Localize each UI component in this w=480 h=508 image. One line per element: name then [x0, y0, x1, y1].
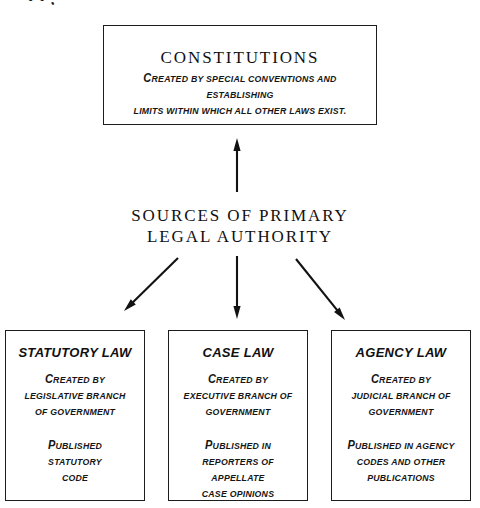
statutory-law-heading: STATUTORY LAW: [6, 345, 144, 360]
legal-authority-diagram: • • , CONSTITUTIONS CREATED BY SPECIAL C…: [0, 0, 480, 508]
case-created-line-3: GOVERNMENT: [178, 404, 298, 420]
arrow-down-left-to-statutory-shaft: [131, 258, 178, 304]
page-scan-fragment: • • ,: [28, 0, 268, 5]
case-law-block-created: CREATED BY EXECUTIVE BRANCH OF GOVERNMEN…: [173, 371, 303, 420]
arrow-down-right-to-agency-shaft: [296, 259, 339, 312]
center-label-line-1: SOURCES OF PRIMARY: [0, 205, 480, 226]
agency-created-line-3: GOVERNMENT: [341, 404, 461, 420]
statutory-published-line-3: CODE: [15, 470, 135, 486]
agency-law-block-published: PUBLISHED IN AGENCY CODES AND OTHER PUBL…: [336, 437, 466, 486]
case-law-box: CASE LAW CREATED BY EXECUTIVE BRANCH OF …: [168, 330, 308, 501]
agency-published-line-1: PUBLISHED IN AGENCY: [341, 437, 461, 454]
constitutions-body: CREATED BY SPECIAL CONVENTIONS AND ESTAB…: [110, 70, 370, 119]
statutory-created-line-2: LEGISLATIVE BRANCH: [15, 388, 135, 404]
case-created-line-1: CREATED BY: [178, 371, 298, 388]
agency-created-line-1: CREATED BY: [341, 371, 461, 388]
arrow-down-right-to-agency-head: [334, 308, 345, 320]
statutory-published-line-2: STATUTORY: [15, 454, 135, 470]
statutory-created-line-3: OF GOVERNMENT: [15, 404, 135, 420]
agency-law-heading: AGENCY LAW: [332, 345, 470, 360]
constitutions-line-2: LIMITS WITHIN WHICH ALL OTHER LAWS EXIST…: [120, 103, 359, 119]
statutory-law-box: STATUTORY LAW CREATED BY LEGISLATIVE BRA…: [5, 330, 145, 501]
constitutions-box: CONSTITUTIONS CREATED BY SPECIAL CONVENT…: [103, 25, 377, 125]
agency-law-box: AGENCY LAW CREATED BY JUDICIAL BRANCH OF…: [331, 330, 471, 501]
agency-created-line-2: JUDICIAL BRANCH OF: [341, 388, 461, 404]
center-label-line-2: LEGAL AUTHORITY: [0, 226, 480, 247]
case-law-block-published: PUBLISHED IN REPORTERS OF APPELLATE CASE…: [173, 437, 303, 502]
case-published-line-1: PUBLISHED IN: [178, 437, 298, 454]
case-law-heading: CASE LAW: [169, 345, 307, 360]
agency-published-line-3: PUBLICATIONS: [341, 470, 461, 486]
agency-published-line-2: CODES AND OTHER: [341, 454, 461, 470]
statutory-law-block-created: CREATED BY LEGISLATIVE BRANCH OF GOVERNM…: [10, 371, 140, 420]
statutory-published-line-1: PUBLISHED: [15, 437, 135, 454]
center-label: SOURCES OF PRIMARY LEGAL AUTHORITY: [0, 205, 480, 247]
agency-law-block-created: CREATED BY JUDICIAL BRANCH OF GOVERNMENT: [336, 371, 466, 420]
case-published-line-2: REPORTERS OF APPELLATE: [178, 454, 298, 486]
constitutions-heading: CONSTITUTIONS: [104, 48, 376, 68]
statutory-law-block-published: PUBLISHED STATUTORY CODE: [10, 437, 140, 486]
statutory-created-line-1: CREATED BY: [15, 371, 135, 388]
case-published-line-3: CASE OPINIONS: [178, 486, 298, 502]
arrow-up-to-constitutions-head: [233, 138, 240, 151]
arrow-down-left-to-statutory-head: [124, 299, 136, 311]
constitutions-line-1: CREATED BY SPECIAL CONVENTIONS AND ESTAB…: [120, 70, 359, 103]
case-created-line-2: EXECUTIVE BRANCH OF: [178, 388, 298, 404]
arrow-down-to-case-head: [233, 306, 240, 319]
